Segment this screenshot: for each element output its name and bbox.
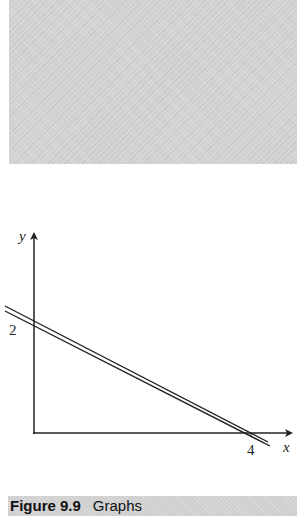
series-line-2 <box>5 311 270 446</box>
y-axis-label: y <box>19 229 26 244</box>
figure-title: Graphs <box>81 497 142 514</box>
figure-number: Figure 9.9 <box>8 497 81 514</box>
x-axis-label: x <box>283 440 290 455</box>
y-tick-label-2: 2 <box>9 323 17 338</box>
series-line-1 <box>5 306 268 442</box>
figure-caption: Figure 9.9Graphs <box>8 496 297 516</box>
x-tick-label-4: 4 <box>247 443 255 458</box>
